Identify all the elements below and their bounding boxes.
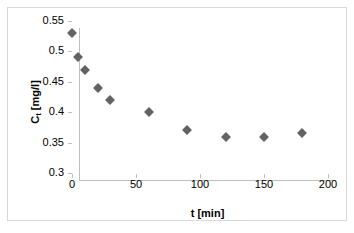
data-point-marker	[221, 132, 231, 142]
data-point-marker	[297, 129, 307, 139]
y-axis-title-symbol: C	[29, 116, 41, 124]
y-axis-title-unit: [mg/l]	[29, 80, 41, 113]
chart-frame: 0.30.350.40.450.50.55 050100150200 t [mi…	[7, 7, 347, 221]
data-point-marker	[105, 95, 115, 105]
scatter-chart-figure: 0.30.350.40.450.50.55 050100150200 t [mi…	[0, 0, 354, 233]
x-axis-tick-label: 150	[255, 179, 273, 190]
data-point-marker	[80, 65, 90, 75]
x-axis-tick-label: 100	[191, 179, 209, 190]
data-point-marker	[73, 53, 83, 63]
data-point-marker	[67, 28, 77, 38]
y-axis-tick-label: 0.55	[8, 15, 64, 26]
data-point-marker	[144, 107, 154, 117]
data-point-marker	[259, 132, 269, 142]
x-axis-tick-label: 200	[319, 179, 337, 190]
y-axis-tick-label: 0.5	[8, 45, 64, 56]
y-axis-title-subscript: t	[34, 113, 43, 116]
y-axis-tick-label: 0.3	[8, 167, 64, 178]
x-axis-tick-label: 50	[130, 179, 142, 190]
y-axis-title: Ct [mg/l]	[29, 62, 41, 142]
plot-area	[72, 21, 328, 173]
data-point-marker	[93, 83, 103, 93]
x-axis-tick-label: 0	[69, 179, 75, 190]
data-point-marker	[182, 125, 192, 135]
x-axis-title: t [min]	[79, 207, 336, 219]
